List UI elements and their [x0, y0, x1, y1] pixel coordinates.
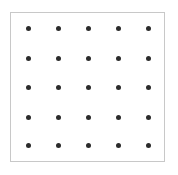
grid-dot	[26, 115, 31, 120]
grid-dot	[146, 26, 151, 31]
grid-dot	[56, 26, 61, 31]
grid-dot	[26, 143, 31, 148]
grid-dot	[26, 85, 31, 90]
grid-dot	[146, 56, 151, 61]
grid-dot	[86, 143, 91, 148]
grid-dot	[56, 56, 61, 61]
grid-dot	[26, 56, 31, 61]
grid-dot	[116, 85, 121, 90]
grid-dot	[86, 26, 91, 31]
grid-dot	[56, 85, 61, 90]
grid-dot	[86, 85, 91, 90]
grid-dot	[116, 143, 121, 148]
grid-dot	[146, 143, 151, 148]
grid-dot	[86, 115, 91, 120]
grid-dot	[26, 26, 31, 31]
grid-dot	[146, 115, 151, 120]
grid-dot	[116, 26, 121, 31]
grid-dot	[56, 143, 61, 148]
grid-dot	[116, 56, 121, 61]
grid-dot	[56, 115, 61, 120]
grid-dot	[146, 85, 151, 90]
grid-dot	[86, 56, 91, 61]
grid-dot	[116, 115, 121, 120]
